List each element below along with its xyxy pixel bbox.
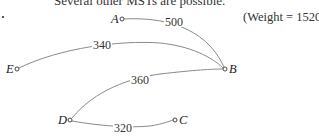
edge-label-d-c: 320 xyxy=(114,121,132,135)
node-label-e: E xyxy=(5,62,14,76)
node-label-a: A xyxy=(110,12,119,26)
node-a xyxy=(120,17,124,21)
edge-e-b xyxy=(19,42,223,68)
node-c xyxy=(173,118,177,122)
edge-label-d-b: 360 xyxy=(131,73,149,87)
node-label-d: D xyxy=(57,113,67,127)
edge-label-a-b: 500 xyxy=(165,15,183,29)
node-e xyxy=(15,67,19,71)
edge-label-e-b: 340 xyxy=(93,38,111,52)
node-label-b: B xyxy=(229,62,237,76)
mst-graph: 500 340 360 320 A B C D E xyxy=(0,0,319,139)
node-d xyxy=(68,118,72,122)
node-label-c: C xyxy=(179,113,188,127)
node-b xyxy=(223,67,227,71)
